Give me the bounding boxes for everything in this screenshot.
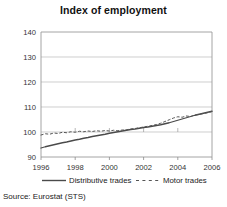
- series-line-motor-trades: [41, 112, 212, 136]
- x-axis-tick-label: 2004: [169, 163, 186, 172]
- legend-item-distributive-trades: Distributive trades: [42, 176, 131, 185]
- legend-label-distributive-trades: Distributive trades: [69, 176, 131, 185]
- legend-label-motor-trades: Motor trades: [163, 176, 207, 185]
- x-axis-tick-label: 2002: [135, 163, 152, 172]
- source-note: Source: Eurostat (STS): [3, 192, 86, 201]
- x-axis-tick-label: 2006: [204, 163, 221, 172]
- x-axis-tick-label: 1998: [67, 163, 84, 172]
- chart-figure: Index of employment 90100110120130140199…: [0, 0, 227, 207]
- legend-item-motor-trades: Motor trades: [136, 176, 207, 185]
- legend-swatch-dashed-line-icon: [136, 177, 160, 184]
- y-axis-tick-label: 120: [23, 78, 36, 87]
- chart-plot-area: 9010011012013014019961998200020022004200…: [0, 0, 227, 172]
- chart-legend: Distributive trades Motor trades: [0, 176, 227, 191]
- y-axis-tick-label: 140: [23, 28, 36, 37]
- y-axis-tick-label: 130: [23, 53, 36, 62]
- y-axis-tick-label: 100: [23, 128, 36, 137]
- y-axis-tick-label: 110: [24, 103, 36, 112]
- y-axis-tick-label: 90: [28, 153, 36, 162]
- x-axis-tick-label: 1996: [33, 163, 50, 172]
- x-axis-tick-label: 2000: [101, 163, 118, 172]
- legend-swatch-solid-line-icon: [42, 177, 66, 184]
